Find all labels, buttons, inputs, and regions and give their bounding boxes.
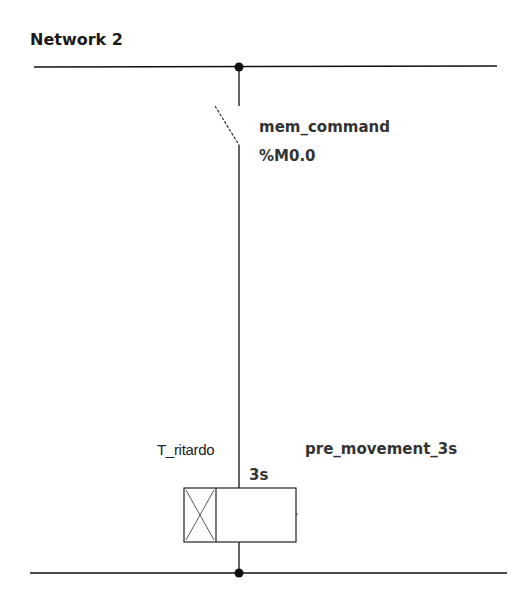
ladder-diagram bbox=[0, 0, 531, 597]
timer-instance-label: T_ritardo bbox=[157, 441, 214, 458]
timer-preset-label: 3s bbox=[249, 466, 268, 484]
timer-coil-icon[interactable] bbox=[184, 488, 298, 542]
timer-symbol-label: pre_movement_3s bbox=[305, 440, 457, 458]
contact-address-label: %M0.0 bbox=[259, 147, 316, 165]
top-rail bbox=[34, 66, 497, 67]
normally-open-contact-icon[interactable] bbox=[215, 106, 239, 145]
bottom-junction-node bbox=[235, 569, 244, 578]
contact-symbol-label: mem_command bbox=[259, 118, 390, 136]
